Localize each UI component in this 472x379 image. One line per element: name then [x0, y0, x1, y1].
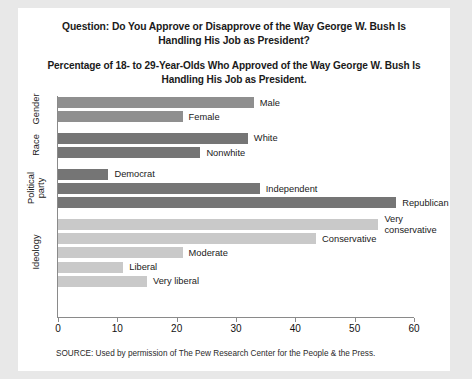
bar-row: Very liberal — [58, 276, 414, 287]
x-tick-mark — [177, 318, 178, 322]
bar-label: Conservative — [322, 234, 376, 244]
bar-label: Male — [260, 98, 280, 108]
x-tick-label: 20 — [171, 323, 182, 334]
x-tick-mark — [355, 318, 356, 322]
bar-label: Republican — [402, 198, 449, 208]
chart-plot-area: 0102030405060 GenderRacePoliticalpartyId… — [18, 88, 450, 336]
bar — [58, 133, 248, 144]
bar-label: Liberal — [129, 262, 157, 272]
x-tick-mark — [58, 318, 59, 322]
bar-row: White — [58, 133, 414, 144]
chart-titles: Question: Do You Approve or Disapprove o… — [18, 8, 450, 86]
bar-row: Male — [58, 97, 414, 108]
x-tick-label: 40 — [290, 323, 301, 334]
x-tick-label: 50 — [349, 323, 360, 334]
bar-label: Nonwhite — [206, 148, 245, 158]
bar — [58, 169, 108, 180]
x-tick-label: 30 — [230, 323, 241, 334]
bar-row: Conservative — [58, 233, 414, 244]
bar-label: Very conservative — [384, 214, 442, 235]
bar — [58, 276, 147, 287]
bar — [58, 197, 396, 208]
x-tick-label: 10 — [112, 323, 123, 334]
bar-row: Very conservative — [58, 219, 414, 230]
x-tick-mark — [117, 318, 118, 322]
bar — [58, 262, 123, 273]
bar-label: Democrat — [114, 169, 154, 179]
bar-row: Nonwhite — [58, 147, 414, 158]
chart-subtitle: Percentage of 18- to 29-Year-Olds Who Ap… — [18, 59, 450, 86]
bar — [58, 97, 254, 108]
x-tick-mark — [295, 318, 296, 322]
bar-label: White — [254, 133, 278, 143]
group-label-political-party: Politicalparty — [26, 160, 46, 216]
bar-label: Moderate — [189, 248, 228, 258]
bar-row: Republican — [58, 197, 414, 208]
bar-row: Female — [58, 111, 414, 122]
x-tick-mark — [414, 318, 415, 322]
bar-label: Very liberal — [153, 276, 199, 286]
x-tick-label: 0 — [55, 323, 61, 334]
bar — [58, 219, 378, 230]
bar — [58, 111, 183, 122]
bar-row: Moderate — [58, 247, 414, 258]
bar — [58, 147, 200, 158]
chart-card: Question: Do You Approve or Disapprove o… — [18, 8, 450, 371]
bar-label: Female — [189, 112, 220, 122]
bar — [58, 247, 183, 258]
x-tick-mark — [236, 318, 237, 322]
bar — [58, 233, 316, 244]
x-tick-label: 60 — [408, 323, 419, 334]
bar-row: Democrat — [58, 169, 414, 180]
bar — [58, 183, 260, 194]
bar-label: Independent — [266, 184, 318, 194]
group-label-ideology: Ideology — [31, 224, 41, 280]
source-note: SOURCE: Used by permission of The Pew Re… — [56, 349, 375, 358]
bar-row: Liberal — [58, 262, 414, 273]
chart-question-title: Question: Do You Approve or Disapprove o… — [18, 20, 450, 47]
bar-row: Independent — [58, 183, 414, 194]
